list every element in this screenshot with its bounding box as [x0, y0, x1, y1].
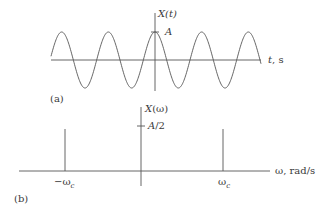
half-amplitude-label: A/2 [148, 121, 165, 131]
xt-axis-label: X(t) [158, 9, 177, 19]
pos-freq-label: ωc [218, 177, 230, 190]
xw-axis-label: X(ω) [145, 104, 168, 114]
frequency-axis-label: ω, rad/s [275, 166, 315, 176]
neg-freq-label: −ωc [54, 177, 74, 190]
amplitude-label: A [165, 27, 172, 37]
panel-b-label: (b) [14, 194, 28, 204]
panel-a-label: (a) [50, 94, 64, 104]
time-axis-label: t, s [268, 55, 284, 65]
